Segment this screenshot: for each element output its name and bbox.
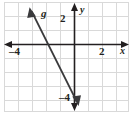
- x-axis: [4, 41, 129, 48]
- y-tick-label-2: 2: [60, 13, 66, 24]
- x-axis-label: x: [120, 46, 125, 56]
- y-tick-label-neg4: –4: [59, 92, 70, 103]
- y-axis-label: y: [80, 5, 84, 15]
- coordinate-grid-figure: –4 2 2 –4 x y g: [0, 0, 133, 114]
- line-segment-g: [32, 12, 77, 101]
- x-tick-label-neg4: –4: [9, 46, 20, 57]
- y-axis-arrow-up: [71, 3, 78, 11]
- x-tick-label-2: 2: [99, 46, 105, 57]
- line-arrow-upper-g: [27, 7, 36, 18]
- line-series-g: [27, 7, 81, 106]
- y-axis-arrow-down: [71, 103, 78, 111]
- y-axis: [71, 3, 78, 111]
- function-label-g: g: [41, 8, 47, 19]
